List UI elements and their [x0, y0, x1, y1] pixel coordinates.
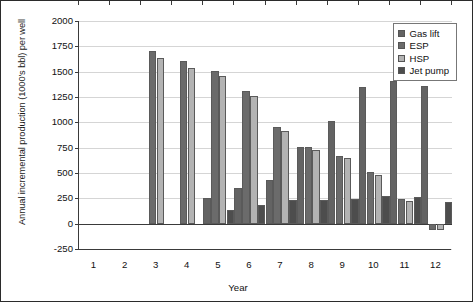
x-axis-tick-label: 8 [296, 259, 326, 270]
bar-hsp-year-11 [406, 201, 413, 223]
legend-label: Gas lift [410, 28, 440, 39]
zero-axis-line [79, 224, 452, 225]
bar-gas-lift-year-7 [266, 180, 273, 224]
x-axis-tick-mark [109, 1, 110, 5]
y-axis-tick-mark [75, 148, 79, 149]
gridline [79, 21, 452, 22]
y-axis-tick-label: 2000 [27, 15, 73, 26]
x-axis-tick-label: 12 [420, 259, 450, 270]
bar-jet-pump-year-7 [289, 200, 296, 224]
x-axis-tick-label: 11 [389, 259, 419, 270]
bar-jet-pump-year-9 [351, 199, 358, 224]
y-axis-tick-label: 1250 [27, 91, 73, 102]
x-axis-tick-mark [327, 1, 328, 5]
bar-gas-lift-year-9 [328, 121, 335, 223]
bar-esp-year-4 [180, 61, 187, 224]
y-axis-tick-label: -250 [27, 243, 73, 254]
bar-jet-pump-year-8 [320, 200, 327, 224]
bar-gas-lift-year-10 [359, 87, 366, 224]
x-axis-tick-mark [202, 1, 203, 5]
x-axis-tick-mark [420, 1, 421, 5]
y-axis-tick-mark [75, 72, 79, 73]
y-axis-tick-label: 1500 [27, 65, 73, 76]
legend-item-esp: ESP [398, 40, 449, 53]
x-axis-tick-label: 4 [172, 259, 202, 270]
x-axis-tick-label: 7 [265, 259, 295, 270]
y-axis-tick-label: 750 [27, 141, 73, 152]
y-axis-tick-mark [75, 21, 79, 22]
bar-jet-pump-year-11 [414, 197, 421, 223]
y-axis-tick-mark [75, 173, 79, 174]
legend-label: ESP [410, 40, 429, 51]
legend-label: Jet pump [410, 65, 449, 76]
x-axis-tick-mark [296, 1, 297, 5]
x-axis-title: Year [1, 282, 474, 293]
y-axis-tick-label: 1750 [27, 40, 73, 51]
bar-gas-lift-year-5 [203, 198, 210, 224]
bar-hsp-year-10 [375, 175, 382, 224]
x-axis-tick-mark [233, 1, 234, 5]
legend-swatch-icon [398, 30, 405, 37]
x-axis-tick-mark [265, 1, 266, 5]
x-axis-tick-label: 9 [327, 259, 357, 270]
chart-frame: Annual incremental production (1000's bb… [0, 0, 473, 302]
y-axis-tick-mark [75, 122, 79, 123]
x-axis-tick-label: 1 [79, 259, 109, 270]
bar-esp-year-8 [305, 147, 312, 224]
bar-esp-year-10 [367, 172, 374, 223]
chart-legend: Gas liftESPHSPJet pump [393, 23, 457, 81]
bar-gas-lift-year-11 [390, 81, 397, 224]
bar-hsp-year-9 [344, 158, 351, 223]
legend-item-hsp: HSP [398, 52, 449, 65]
y-axis-tick-label: 0 [27, 217, 73, 228]
legend-swatch-icon [398, 55, 405, 62]
x-axis-tick-label: 10 [358, 259, 388, 270]
bar-jet-pump-year-12 [445, 202, 452, 223]
legend-item-jet-pump: Jet pump [398, 65, 449, 78]
x-axis-tick-label: 2 [110, 259, 140, 270]
x-axis-tick-mark [389, 1, 390, 5]
bar-hsp-year-8 [312, 150, 319, 224]
x-axis-tick-label: 3 [141, 259, 171, 270]
bar-gas-lift-year-6 [234, 188, 241, 223]
x-axis-tick-label: 6 [234, 259, 264, 270]
y-axis-title: Annual incremental production (1000's bb… [17, 7, 27, 237]
bar-esp-year-5 [211, 71, 218, 224]
bar-hsp-year-6 [250, 96, 257, 224]
y-axis-tick-mark [75, 46, 79, 47]
bar-esp-year-6 [242, 91, 249, 224]
x-axis-line [78, 249, 451, 250]
bar-gas-lift-year-12 [421, 86, 428, 224]
bar-hsp-year-5 [219, 76, 226, 223]
bar-esp-year-3 [149, 51, 156, 223]
bar-hsp-year-3 [157, 58, 164, 224]
x-axis-tick-label: 5 [203, 259, 233, 270]
y-axis-tick-mark [75, 198, 79, 199]
bar-hsp-year-7 [281, 131, 288, 224]
bar-esp-year-11 [398, 199, 405, 223]
legend-swatch-icon [398, 42, 405, 49]
x-axis-tick-mark [78, 1, 79, 5]
legend-item-gas-lift: Gas lift [398, 27, 449, 40]
x-axis-tick-mark [171, 1, 172, 5]
bar-gas-lift-year-8 [297, 147, 304, 224]
bar-hsp-year-4 [188, 68, 195, 224]
bar-esp-year-9 [336, 156, 343, 224]
legend-swatch-icon [398, 67, 405, 74]
bar-esp-year-7 [273, 127, 280, 224]
x-axis-tick-mark [451, 1, 452, 5]
bar-esp-year-12 [429, 224, 436, 230]
y-axis-tick-mark [75, 97, 79, 98]
x-axis-tick-mark [140, 1, 141, 5]
x-axis-tick-mark [358, 1, 359, 5]
y-axis-tick-label: 1000 [27, 116, 73, 127]
y-axis-tick-mark [75, 224, 79, 225]
bar-jet-pump-year-10 [382, 196, 389, 224]
bar-hsp-year-12 [437, 224, 444, 230]
y-axis-tick-label: 250 [27, 192, 73, 203]
bar-jet-pump-year-5 [227, 210, 234, 223]
bar-jet-pump-year-6 [258, 205, 265, 224]
y-axis-tick-label: 500 [27, 167, 73, 178]
legend-label: HSP [410, 53, 430, 64]
